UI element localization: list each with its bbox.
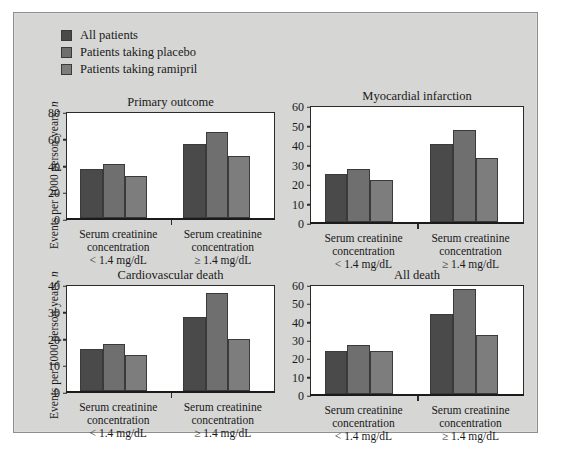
x-axis-group-label-line: concentration (66, 414, 171, 427)
subplot-cardiovascular-death: Cardiovascular death010203040Serum creat… (66, 268, 275, 450)
x-axis-group-label: Serum creatinineconcentration≥ 1.4 mg/dL (171, 228, 276, 267)
bar (125, 176, 147, 218)
bar (228, 156, 250, 218)
bar (80, 349, 102, 391)
bars-container (311, 286, 523, 394)
y-axis-tick-label: 50 (292, 297, 311, 312)
x-axis-group-label: Serum creatinineconcentration≥ 1.4 mg/dL (171, 401, 276, 440)
x-axis-group-label-line: concentration (310, 245, 417, 258)
bar (476, 158, 499, 222)
subplot-myocardial-infarction: Myocardial infarction0102030405060Serum … (310, 89, 524, 281)
x-axis-group-label-line: ≥ 1.4 mg/dL (171, 254, 276, 267)
x-axis-group-label-line: ≥ 1.4 mg/dL (171, 427, 276, 440)
x-axis-group-label-line: Serum creatinine (171, 228, 276, 241)
y-axis-tick-label: 60 (292, 279, 311, 294)
y-axis-tick-label: 0 (54, 386, 67, 401)
y-axis-tick-label: 10 (292, 370, 311, 385)
bar (347, 169, 370, 222)
x-axis-group-label-line: Serum creatinine (417, 404, 524, 417)
subplot-title: Myocardial infarction (310, 89, 524, 104)
x-axis-center-tick (171, 393, 173, 398)
bar (325, 351, 348, 394)
legend-swatch-icon (61, 30, 72, 41)
x-axis-group-label-line: concentration (417, 245, 524, 258)
bar (228, 339, 250, 391)
bar (453, 289, 476, 394)
x-axis-group-label: Serum creatinineconcentration< 1.4 mg/dL (310, 232, 417, 271)
x-axis-group-label: Serum creatinineconcentration< 1.4 mg/dL (310, 404, 417, 443)
subplot-title: Cardiovascular death (66, 268, 275, 283)
bar (325, 174, 348, 222)
bar (430, 314, 453, 394)
plot-area: 0102030405060 (310, 106, 524, 223)
bar (476, 335, 499, 394)
bar (103, 164, 125, 218)
x-axis-center-tick (171, 220, 173, 225)
x-axis-group-label-line: concentration (310, 417, 417, 430)
x-axis-group-label-line: Serum creatinine (417, 232, 524, 245)
subplot-title: All death (310, 268, 524, 283)
legend-item: Patients taking ramipril (61, 61, 197, 78)
x-axis-group-label: Serum creatinineconcentration≥ 1.4 mg/dL (417, 232, 524, 271)
bars-container (67, 113, 274, 218)
y-axis-tick-label: 10 (48, 359, 67, 374)
x-axis-group-label-line: Serum creatinine (66, 228, 171, 241)
y-axis-tick-label: 20 (292, 352, 311, 367)
bar (80, 169, 102, 218)
x-axis-group-label: Serum creatinineconcentration< 1.4 mg/dL (66, 228, 171, 267)
x-axis-group-label-line: < 1.4 mg/dL (310, 430, 417, 443)
bars-container (311, 107, 523, 222)
bar (103, 344, 125, 391)
x-axis-group-label-line: ≥ 1.4 mg/dL (417, 430, 524, 443)
x-axis-group-label-line: concentration (171, 414, 276, 427)
legend-item-label: Patients taking ramipril (80, 63, 197, 76)
bar (206, 293, 228, 391)
y-axis-tick-label: 40 (292, 139, 311, 154)
y-axis-tick-label: 0 (298, 389, 311, 404)
y-axis-tick-label: 50 (292, 119, 311, 134)
y-axis-tick-label: 60 (292, 100, 311, 115)
bar (125, 355, 147, 391)
x-axis-group-label-line: < 1.4 mg/dL (66, 254, 171, 267)
x-axis-group-label-line: Serum creatinine (310, 232, 417, 245)
bar (453, 130, 476, 222)
legend-item-label: All patients (80, 29, 138, 42)
y-axis-label-italic-n: n (48, 271, 60, 277)
y-axis-tick-label: 20 (48, 332, 67, 347)
subplot-primary-outcome: Primary outcome020406080Serum creatinine… (66, 95, 275, 277)
subplot-title: Primary outcome (66, 95, 275, 110)
legend-swatch-icon (61, 64, 72, 75)
x-axis-group-label: Serum creatinineconcentration≥ 1.4 mg/dL (417, 404, 524, 443)
y-axis-tick-label: 20 (292, 178, 311, 193)
x-axis-group-label-line: concentration (171, 241, 276, 254)
y-axis-tick-label: 40 (48, 279, 67, 294)
bar (183, 317, 205, 391)
x-axis-group-label-line: Serum creatinine (310, 404, 417, 417)
x-axis-center-tick (417, 396, 419, 401)
y-axis-tick-label: 20 (48, 186, 67, 201)
bar (370, 351, 393, 394)
x-axis-group-label-line: Serum creatinine (171, 401, 276, 414)
y-axis-tick-label: 40 (48, 159, 67, 174)
bar (183, 144, 205, 218)
y-axis-tick-label: 30 (292, 334, 311, 349)
x-axis-center-tick (417, 224, 419, 229)
subplot-all-death: All death0102030405060Serum creatinineco… (310, 268, 524, 453)
legend-item-label: Patients taking placebo (80, 46, 196, 59)
plot-area: 010203040 (66, 285, 275, 392)
x-axis-group-label-line: Serum creatinine (66, 401, 171, 414)
bar (206, 132, 228, 218)
y-axis-tick-label: 40 (292, 315, 311, 330)
y-axis-tick-label: 30 (292, 158, 311, 173)
x-axis-group-label: Serum creatinineconcentration< 1.4 mg/dL (66, 401, 171, 440)
x-axis-group-label-line: < 1.4 mg/dL (66, 427, 171, 440)
bar (347, 345, 370, 394)
plot-area: 020406080 (66, 112, 275, 219)
x-axis-group-label-line: concentration (417, 417, 524, 430)
bars-container (67, 286, 274, 391)
y-axis-tick-label: 10 (292, 197, 311, 212)
figure-panel: All patientsPatients taking placeboPatie… (13, 12, 538, 433)
y-axis-tick-label: 60 (48, 132, 67, 147)
legend-item: All patients (61, 27, 197, 44)
y-axis-tick-label: 0 (54, 213, 67, 228)
